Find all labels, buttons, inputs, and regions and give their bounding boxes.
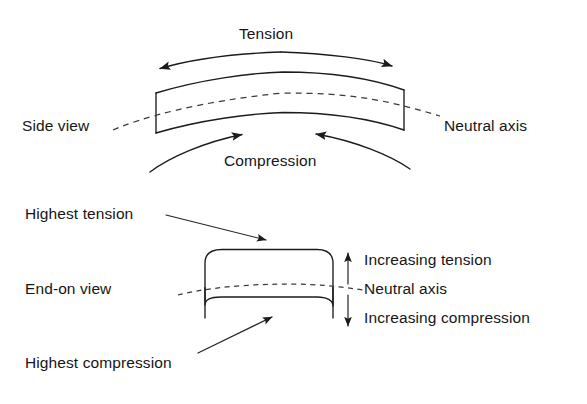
increasing-compression-label: Increasing compression — [364, 310, 530, 326]
side-view-neutral-axis-line — [113, 93, 440, 130]
side-view-neutral-axis-label: Neutral axis — [444, 118, 527, 134]
diagram-canvas — [0, 0, 587, 404]
compression-label: Compression — [224, 153, 316, 169]
end-on-neutral-axis-label: Neutral axis — [364, 281, 447, 297]
beam-bottom-edge — [156, 113, 404, 134]
tension-arc-left — [160, 52, 281, 69]
highest-tension-label: Highest tension — [25, 206, 133, 222]
highest-tension-leader-arrow — [166, 215, 266, 240]
highest-compression-label: Highest compression — [25, 355, 172, 371]
tension-label: Tension — [239, 26, 293, 42]
cross-section-bottom-surface — [205, 288, 333, 306]
highest-compression-leader-arrow — [198, 317, 272, 353]
beam-top-edge — [156, 72, 404, 93]
compression-arc-right — [316, 134, 410, 169]
tension-arc-right — [281, 52, 392, 66]
end-on-neutral-axis-line — [178, 284, 364, 295]
increasing-tension-label: Increasing tension — [364, 252, 492, 268]
beam-bending-diagram: Tension Side view Neutral axis Compressi… — [0, 0, 587, 404]
end-on-view-label: End-on view — [25, 281, 111, 297]
side-view-label: Side view — [22, 118, 89, 134]
cross-section-top-surface — [205, 250, 333, 289]
tension-arc-group — [160, 52, 392, 69]
